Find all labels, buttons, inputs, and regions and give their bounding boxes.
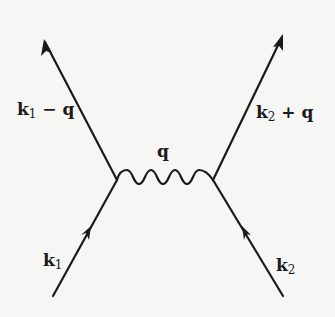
arrowhead-outgoing-right-icon bbox=[273, 34, 283, 51]
label-k1-minus-q: k1 − q bbox=[17, 101, 74, 120]
label-k2-plus-q: k2 + q bbox=[256, 104, 313, 123]
incoming-left-line bbox=[53, 180, 117, 296]
feynman-diagram: k1 − q k2 + q q k1 k2 bbox=[0, 0, 335, 317]
incoming-right-line bbox=[213, 180, 283, 296]
label-k2: k2 bbox=[276, 257, 295, 276]
photon-wavy-line bbox=[117, 170, 213, 184]
arrowhead-incoming-right-icon bbox=[242, 226, 251, 240]
label-k1: k1 bbox=[43, 252, 62, 271]
label-q: q bbox=[157, 143, 169, 160]
